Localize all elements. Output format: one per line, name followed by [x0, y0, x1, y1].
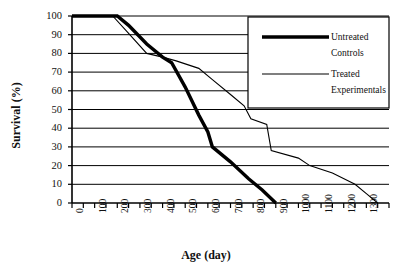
- legend-label-treated-line1: Treated: [331, 68, 360, 80]
- legend-label-untreated-line2: Controls: [331, 47, 364, 59]
- survival-curve-figure: Survival (%) Age (day) 10090807060504030…: [0, 0, 412, 276]
- legend-label-untreated-line1: Untreated: [331, 31, 368, 43]
- legend-label-treated-line2: Experimentals: [331, 84, 386, 96]
